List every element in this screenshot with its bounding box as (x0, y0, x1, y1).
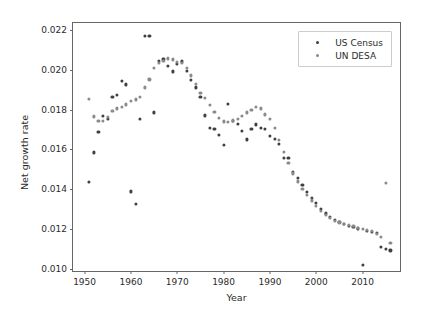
data-point (190, 78, 193, 81)
x-tick-mark (362, 271, 363, 274)
data-point (384, 247, 387, 250)
x-tick-mark (269, 271, 270, 274)
data-point (254, 123, 257, 126)
data-point (259, 107, 262, 110)
data-point (319, 209, 322, 212)
data-point (134, 202, 137, 205)
data-point (213, 111, 216, 114)
chart-legend: US Census UN DESA (298, 31, 392, 67)
legend-label: US Census (329, 38, 383, 48)
data-point (208, 127, 211, 130)
data-point (152, 111, 155, 114)
data-point (310, 199, 313, 202)
data-point (203, 114, 206, 117)
data-point (143, 86, 146, 89)
data-point (250, 108, 253, 111)
data-point (264, 127, 267, 130)
data-point (162, 59, 165, 62)
data-point (190, 74, 193, 77)
x-tick-label: 2010 (351, 277, 374, 287)
data-point (236, 118, 239, 121)
data-point (88, 180, 91, 183)
data-point (148, 34, 151, 37)
data-point (199, 91, 202, 94)
data-point (92, 151, 95, 154)
legend-label: UN DESA (329, 51, 376, 61)
data-point (329, 217, 332, 220)
data-point (129, 99, 132, 102)
data-point (380, 245, 383, 248)
legend-item-un-desa: UN DESA (305, 49, 383, 62)
data-point (222, 120, 225, 123)
data-point (287, 162, 290, 165)
data-point (241, 130, 244, 133)
plot-axes: 1950196019701980199020002010 0.0100.0120… (72, 22, 401, 272)
data-point (268, 134, 271, 137)
data-point (194, 86, 197, 89)
data-point (92, 115, 95, 118)
data-point (338, 221, 341, 224)
legend-marker-icon (305, 54, 329, 57)
legend-item-us-census: US Census (305, 36, 383, 49)
data-point (254, 105, 257, 108)
data-point (203, 97, 206, 100)
data-point (139, 118, 142, 121)
data-point (241, 114, 244, 117)
data-point (120, 106, 123, 109)
data-point (292, 172, 295, 175)
y-axis-label: Net growth rate (19, 93, 30, 213)
data-point (213, 127, 216, 130)
data-point (134, 98, 137, 101)
x-tick-label: 1960 (119, 277, 142, 287)
data-point (102, 119, 105, 122)
data-point (129, 190, 132, 193)
data-point (157, 62, 160, 65)
data-point (148, 78, 151, 81)
x-tick-mark (316, 271, 317, 274)
x-tick-mark (223, 271, 224, 274)
data-point (380, 236, 383, 239)
data-point (227, 102, 230, 105)
data-point (208, 104, 211, 107)
data-point (273, 137, 276, 140)
data-point (273, 126, 276, 129)
data-point (361, 227, 364, 230)
data-point (166, 65, 169, 68)
data-point (115, 93, 118, 96)
y-tick-label: 0.022 (41, 25, 67, 35)
data-point (245, 138, 248, 141)
y-tick-label: 0.016 (41, 144, 67, 154)
data-point (389, 249, 392, 252)
data-point (97, 120, 100, 123)
data-point (264, 113, 267, 116)
data-point (143, 34, 146, 37)
data-point (259, 126, 262, 129)
data-point (125, 83, 128, 86)
data-point (305, 194, 308, 197)
data-point (278, 142, 281, 145)
y-tick-label: 0.018 (41, 105, 67, 115)
data-point (361, 263, 364, 266)
x-tick-label: 1950 (73, 277, 96, 287)
data-point (236, 122, 239, 125)
x-tick-label: 1970 (166, 277, 189, 287)
data-point (180, 61, 183, 64)
data-point (111, 95, 114, 98)
y-tick-label: 0.012 (41, 224, 67, 234)
data-point (301, 187, 304, 190)
data-point (342, 222, 345, 225)
data-point (166, 57, 169, 60)
data-point (185, 66, 188, 69)
x-tick-mark (84, 271, 85, 274)
data-point (115, 107, 118, 110)
data-point (194, 83, 197, 86)
x-axis-label: Year (72, 292, 401, 303)
x-tick-mark (177, 271, 178, 274)
x-tick-mark (130, 271, 131, 274)
data-point (171, 58, 174, 61)
data-point (88, 97, 91, 100)
data-point (315, 204, 318, 207)
data-point (217, 116, 220, 119)
data-point (268, 118, 271, 121)
data-point (227, 120, 230, 123)
